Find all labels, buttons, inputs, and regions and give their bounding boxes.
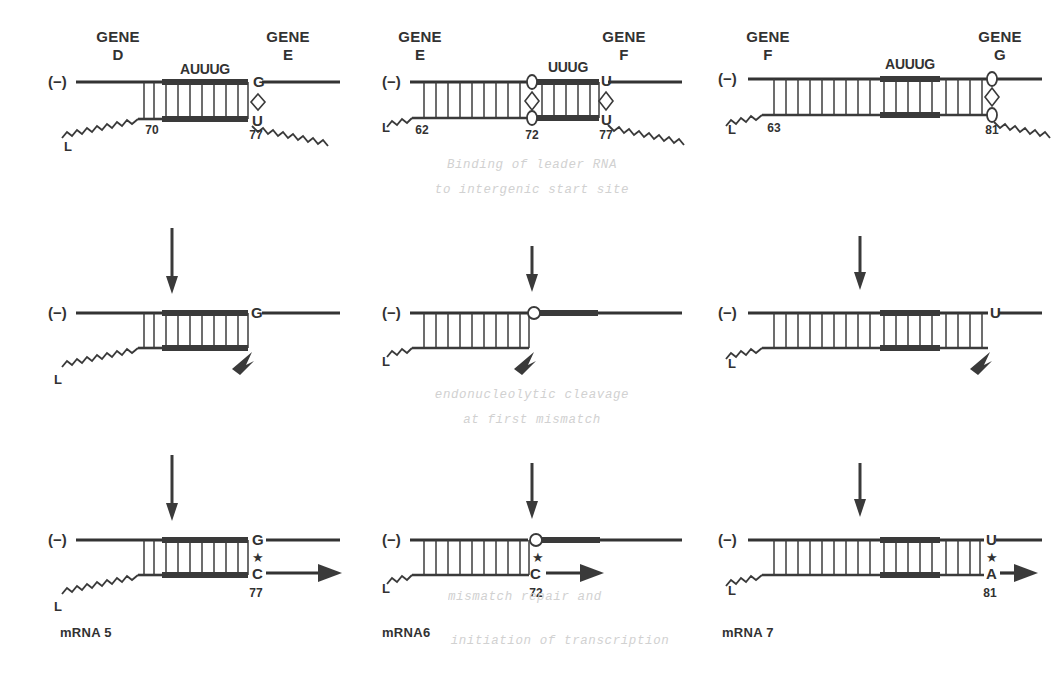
duplex-top-bar bbox=[880, 310, 940, 316]
transcription-arrow-icon bbox=[1000, 564, 1038, 582]
mrna-label: mRNA 7 bbox=[722, 625, 774, 640]
repaired-number: 81 bbox=[983, 586, 997, 600]
minus-strand-label: (−) bbox=[718, 304, 737, 321]
panel-row2-col1: (−) L G bbox=[40, 228, 370, 378]
top-base: G bbox=[251, 304, 263, 321]
leader-label: L bbox=[382, 581, 390, 596]
sequence-label: AUUUG bbox=[180, 61, 230, 77]
duplex-rungs bbox=[424, 82, 599, 118]
gene-left-word: GENE bbox=[398, 28, 441, 45]
gene-right-letter: F bbox=[619, 46, 628, 63]
base-pair-star: ★ bbox=[252, 550, 264, 565]
mismatch-diamond bbox=[599, 92, 613, 110]
duplex-start-number: 70 bbox=[145, 123, 159, 137]
inner-bottom-base-marker bbox=[527, 111, 537, 125]
minus-strand-label: (−) bbox=[382, 304, 401, 321]
duplex-rungs bbox=[144, 313, 248, 348]
repaired-number: 77 bbox=[249, 586, 263, 600]
minus-strand-label: (−) bbox=[48, 304, 67, 321]
leader-tail-left bbox=[62, 119, 138, 138]
down-arrow-icon bbox=[166, 228, 178, 294]
leader-tail-right bbox=[252, 126, 328, 146]
inner-mismatch-diamond bbox=[525, 92, 539, 110]
duplex-bottom-bar bbox=[162, 116, 248, 122]
gene-right-letter: E bbox=[283, 46, 293, 63]
gene-left-word: GENE bbox=[746, 28, 789, 45]
leader-tail-left bbox=[62, 348, 138, 367]
duplex-rungs bbox=[774, 79, 982, 115]
repaired-top-base: G bbox=[252, 531, 264, 548]
leader-label: L bbox=[54, 599, 62, 614]
base-pair-star: ★ bbox=[986, 550, 998, 565]
duplex-top-bar bbox=[880, 537, 940, 543]
down-arrow-icon bbox=[854, 236, 866, 290]
duplex-top-bar bbox=[880, 76, 940, 82]
duplex-bottom-bar bbox=[162, 572, 248, 578]
minus-strand-label: (−) bbox=[382, 531, 401, 548]
leader-label: L bbox=[382, 354, 390, 369]
duplex-bottom-bar bbox=[162, 345, 248, 351]
leader-tail-left bbox=[62, 575, 138, 594]
down-arrow-icon bbox=[166, 455, 178, 521]
caption-row3-line1: mismatch repair and bbox=[448, 590, 748, 604]
minus-strand-label: (−) bbox=[48, 73, 67, 90]
panel-row1-col2: GENE E GENE F (−) UUUG L 72 bbox=[382, 22, 722, 172]
leader-label: L bbox=[728, 356, 736, 371]
duplex-rungs bbox=[424, 313, 529, 348]
duplex-bottom-bar bbox=[880, 345, 940, 351]
duplex-rungs bbox=[774, 313, 982, 348]
top-base: U bbox=[990, 304, 1001, 321]
duplex-bottom-bar bbox=[880, 572, 940, 578]
duplex-start-number: 62 bbox=[415, 123, 429, 137]
cleavage-arrow-icon bbox=[232, 352, 254, 375]
leader-label: L bbox=[382, 120, 390, 135]
duplex-rungs bbox=[144, 540, 248, 575]
top-base: G bbox=[253, 73, 265, 90]
gene-left-letter: F bbox=[763, 46, 772, 63]
minus-strand-label: (−) bbox=[48, 531, 67, 548]
leader-tail-right bbox=[608, 125, 684, 145]
panel-row1-col3: GENE F GENE G (−) AUUUG bbox=[712, 22, 1052, 172]
gene-right-word: GENE bbox=[602, 28, 645, 45]
minus-strand-label: (−) bbox=[718, 531, 737, 548]
cleavage-arrow-icon bbox=[970, 352, 992, 375]
minus-strand-label: (−) bbox=[718, 70, 737, 87]
duplex-rungs bbox=[774, 540, 980, 575]
transcription-arrow-icon bbox=[266, 564, 342, 582]
duplex-bottom-bar bbox=[880, 112, 940, 118]
minus-strand-label: (−) bbox=[382, 73, 401, 90]
leader-label: L bbox=[64, 139, 72, 154]
bottom-base: U bbox=[252, 112, 263, 129]
panel-row2-col2: (−) L bbox=[382, 228, 722, 378]
repaired-bottom-base: C bbox=[252, 565, 263, 582]
cleavage-arrow-icon bbox=[514, 352, 536, 375]
leader-tail-left bbox=[387, 118, 412, 127]
repaired-bottom-base: C bbox=[530, 565, 541, 582]
panel-row3-col3: (−) L U ★ A 81 bbox=[712, 455, 1052, 645]
mismatch-diamond bbox=[985, 88, 999, 106]
top-base: U bbox=[601, 72, 612, 89]
gene-left-letter: E bbox=[415, 46, 425, 63]
down-arrow-icon bbox=[526, 246, 538, 292]
cleaved-top-bar bbox=[540, 310, 598, 316]
panel-row2-col3: (−) L U bbox=[712, 228, 1052, 378]
gene-left-word: GENE bbox=[96, 28, 139, 45]
top-base-marker bbox=[987, 72, 997, 86]
caption-row2-line1: endonucleolytic cleavage bbox=[382, 388, 682, 402]
repair-site-marker bbox=[530, 534, 542, 546]
leader-tail-right bbox=[994, 122, 1050, 138]
base-pair-star: ★ bbox=[532, 550, 544, 565]
cleavage-site-marker bbox=[528, 307, 540, 319]
leader-tail-left bbox=[387, 348, 412, 357]
sequence-label: AUUUG bbox=[885, 56, 935, 72]
repaired-top-base: U bbox=[986, 531, 997, 548]
gene-right-word: GENE bbox=[266, 28, 309, 45]
inner-number: 72 bbox=[525, 128, 539, 142]
caption-row2-line2: at first mismatch bbox=[382, 413, 682, 427]
inner-top-base-marker bbox=[527, 75, 537, 89]
bottom-base-marker bbox=[987, 108, 997, 122]
duplex-bottom-bar bbox=[537, 115, 599, 121]
down-arrow-icon bbox=[526, 463, 538, 519]
duplex-start-number: 63 bbox=[767, 121, 781, 135]
mismatch-diamond bbox=[251, 94, 265, 110]
